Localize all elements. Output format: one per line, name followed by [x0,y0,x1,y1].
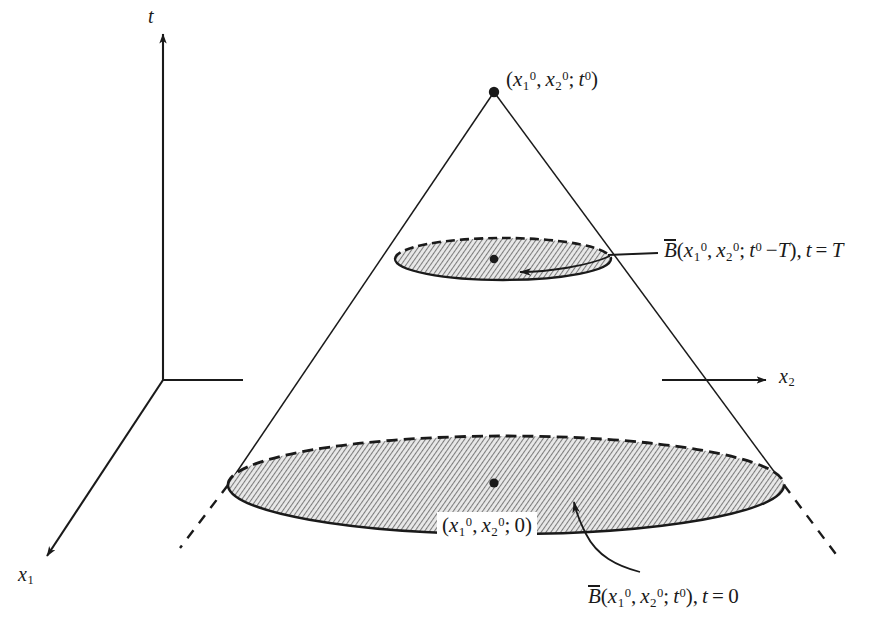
upper-disk-center-point [490,255,499,264]
t-axis-label: t [148,6,154,26]
figure-canvas: t x2 x1 (x10,x20;t0) B (x10,x20;t0−T),t=… [0,0,896,634]
lower-disk-annotation: B (x10,x20;t0),t=0 [588,586,739,609]
lower-disk-center-point [489,478,498,487]
overbar-upper [664,239,676,241]
lower-disk-center-label: (x10,x20;0) [437,512,537,542]
upper-annotation-leader [608,253,658,255]
x1-axis-line [47,380,163,556]
cone-left-generator [228,92,494,485]
overbar-lower [588,585,600,587]
x2-axis-label: x2 [779,366,795,389]
upper-disk-group [395,238,611,280]
cone-left-dashed-extension [180,485,228,548]
x1-axis-label: x1 [18,564,34,587]
cone-apex-point [489,87,499,97]
upper-disk-annotation: B (x10,x20;t0−T),t=T [664,240,844,263]
apex-label: (x10,x20;t0) [506,69,598,92]
cone-right-generator [494,92,784,485]
cone-right-dashed-extension [784,485,838,557]
